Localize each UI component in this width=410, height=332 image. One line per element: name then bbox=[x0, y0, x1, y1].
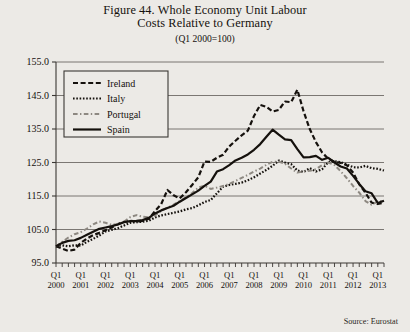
y-axis-tick-label: 135.0 bbox=[27, 123, 50, 134]
y-axis-labels: 155.0145.0135.0125.0115.0105.095.0 bbox=[27, 56, 50, 268]
x-axis-year-label: 2007 bbox=[221, 280, 239, 290]
x-axis-quarter-label: Q1 bbox=[348, 270, 359, 280]
x-axis-quarter-label: Q1 bbox=[150, 270, 161, 280]
y-axis-tick-label: 155.0 bbox=[27, 56, 50, 67]
legend-label-spain: Spain bbox=[107, 124, 130, 135]
x-axis-quarter-label: Q1 bbox=[100, 270, 111, 280]
x-axis-quarter-label: Q1 bbox=[175, 270, 186, 280]
x-minor-ticks bbox=[56, 263, 384, 267]
x-axis-quarter-label: Q1 bbox=[274, 270, 285, 280]
x-axis-quarter-label: Q1 bbox=[298, 270, 309, 280]
chart-legend: IrelandItalyPortugalSpain bbox=[64, 71, 168, 137]
x-axis-year-label: 2000 bbox=[47, 280, 64, 290]
x-axis-year-label: 2011 bbox=[320, 280, 337, 290]
x-axis-year-label: 2006 bbox=[196, 280, 214, 290]
source-note: Source: Eurostat bbox=[344, 317, 398, 326]
x-axis-year-label: 2008 bbox=[245, 280, 262, 290]
x-axis-year-label: 2001 bbox=[72, 280, 89, 290]
y-axis-tick-label: 95.0 bbox=[32, 257, 50, 268]
figure-container: Figure 44. Whole Economy Unit Labour Cos… bbox=[0, 0, 410, 332]
x-axis-quarter-label: Q1 bbox=[323, 270, 334, 280]
x-axis-year-label: 2003 bbox=[122, 280, 139, 290]
x-axis-year-label: 2010 bbox=[295, 280, 312, 290]
y-axis-ticks bbox=[52, 62, 56, 263]
y-axis-tick-label: 125.0 bbox=[27, 157, 50, 168]
x-axis-year-label: 2013 bbox=[369, 280, 386, 290]
y-axis-tick-label: 115.0 bbox=[27, 190, 49, 201]
x-axis-labels: Q12000Q12001Q12002Q12003Q12004Q12005Q120… bbox=[47, 270, 386, 290]
x-axis-year-label: 2002 bbox=[97, 280, 114, 290]
legend-label-ireland: Ireland bbox=[107, 78, 135, 89]
x-axis-quarter-label: Q1 bbox=[125, 270, 136, 280]
x-axis-quarter-label: Q1 bbox=[51, 270, 62, 280]
x-axis-quarter-label: Q1 bbox=[249, 270, 260, 280]
line-chart: 155.0145.0135.0125.0115.0105.095.0 Q1200… bbox=[0, 0, 410, 332]
x-axis-year-label: 2012 bbox=[344, 280, 361, 290]
x-axis-quarter-label: Q1 bbox=[373, 270, 384, 280]
y-axis-tick-label: 105.0 bbox=[27, 224, 50, 235]
x-axis-quarter-label: Q1 bbox=[75, 270, 86, 280]
x-axis-year-label: 2009 bbox=[270, 280, 287, 290]
legend-label-portugal: Portugal bbox=[107, 109, 141, 120]
x-axis-quarter-label: Q1 bbox=[199, 270, 210, 280]
x-axis-year-label: 2004 bbox=[146, 280, 164, 290]
x-axis-year-label: 2005 bbox=[171, 280, 188, 290]
legend-label-italy: Italy bbox=[107, 93, 125, 104]
x-axis-quarter-label: Q1 bbox=[224, 270, 235, 280]
y-axis-tick-label: 145.0 bbox=[27, 90, 50, 101]
